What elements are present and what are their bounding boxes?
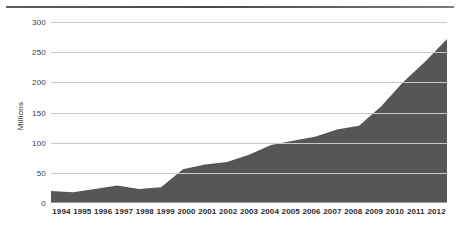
x-axis-tick-label: 2006 bbox=[301, 207, 322, 221]
gridline bbox=[51, 113, 447, 114]
x-axis-tick-label: 1998 bbox=[134, 207, 155, 221]
x-axis-tick-label: 2008 bbox=[343, 207, 364, 221]
x-axis-tick-label: 2001 bbox=[197, 207, 218, 221]
x-axis-tick-label: 2004 bbox=[259, 207, 280, 221]
x-axis-tick-label: 2002 bbox=[218, 207, 239, 221]
header-divider-rule bbox=[6, 6, 454, 8]
gridline bbox=[51, 82, 447, 83]
x-axis-tick-label: 1994 bbox=[51, 207, 72, 221]
y-axis-tick-label: 200 bbox=[6, 78, 46, 87]
x-axis-tick-label: 2012 bbox=[426, 207, 447, 221]
plot-area: 050100150200250300 bbox=[51, 22, 447, 203]
x-axis-tick-label: 2003 bbox=[239, 207, 260, 221]
chart-figure: Millions 050100150200250300 199419951996… bbox=[0, 0, 459, 231]
y-axis-tick-label: 0 bbox=[6, 199, 46, 208]
x-axis-tick-label: 1997 bbox=[114, 207, 135, 221]
x-axis-tick-label: 1999 bbox=[155, 207, 176, 221]
gridline bbox=[51, 173, 447, 174]
x-axis-tick-label: 1995 bbox=[72, 207, 93, 221]
x-axis-tick-label: 2009 bbox=[364, 207, 385, 221]
x-axis-tick-label: 1996 bbox=[93, 207, 114, 221]
y-axis-tick-label: 50 bbox=[6, 168, 46, 177]
x-axis-tick-label: 2007 bbox=[322, 207, 343, 221]
x-axis-line bbox=[51, 202, 447, 203]
gridline bbox=[51, 143, 447, 144]
x-axis-tick-label: 2000 bbox=[176, 207, 197, 221]
y-axis-tick-label: 300 bbox=[6, 18, 46, 27]
x-axis-tick-label: 2010 bbox=[385, 207, 406, 221]
x-axis-tick-label: 2011 bbox=[405, 207, 426, 221]
y-axis-tick-label: 150 bbox=[6, 108, 46, 117]
y-axis-tick-label: 250 bbox=[6, 48, 46, 57]
x-axis-tick-labels: 1994199519961997199819992000200120022003… bbox=[51, 207, 447, 221]
gridline bbox=[51, 52, 447, 53]
page-header-ghost-text bbox=[150, 0, 330, 5]
gridline bbox=[51, 22, 447, 23]
y-axis-tick-label: 100 bbox=[6, 138, 46, 147]
x-axis-tick-label: 2005 bbox=[280, 207, 301, 221]
